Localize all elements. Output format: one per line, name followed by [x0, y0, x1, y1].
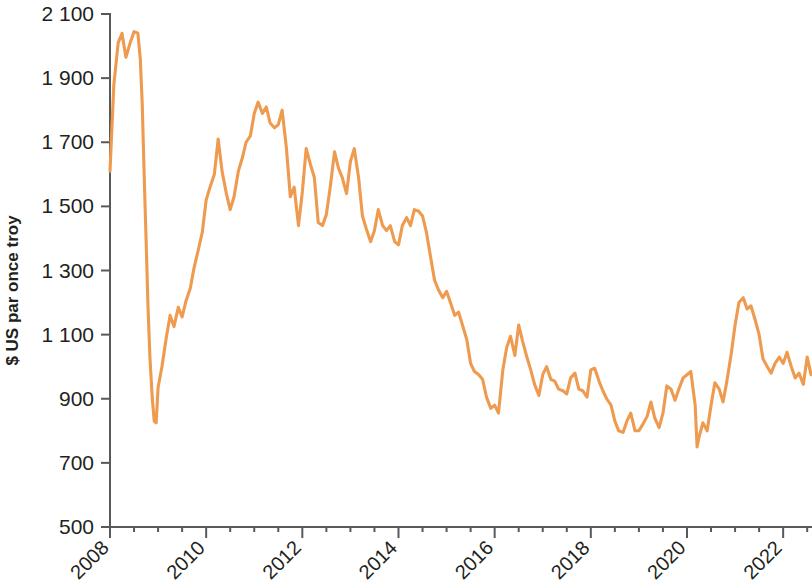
y-axis-tick-labels: 5007009001 1001 3001 5001 7001 9002 100 — [41, 2, 94, 538]
x-tick-label: 2020 — [643, 536, 690, 583]
y-tick-label: 1 300 — [41, 259, 94, 282]
y-tick-label: 2 100 — [41, 2, 94, 25]
x-tick-label: 2010 — [162, 536, 209, 583]
y-axis-title: $ US par once troy — [3, 215, 22, 366]
y-tick-label: 1 500 — [41, 194, 94, 217]
series-line — [110, 32, 811, 447]
x-tick-label: 2012 — [258, 536, 305, 583]
x-tick-label: 2008 — [66, 536, 113, 583]
x-tick-label: 2016 — [450, 536, 497, 583]
y-tick-label: 1 700 — [41, 130, 94, 153]
chart-container: 5007009001 1001 3001 5001 7001 9002 100 … — [0, 0, 812, 588]
data-series-group — [110, 32, 811, 447]
axis-tick-marks — [101, 14, 807, 538]
x-axis-tick-labels: 20082010201220142016201820202022 — [66, 536, 786, 583]
x-tick-label: 2018 — [547, 536, 594, 583]
y-tick-label: 500 — [59, 515, 94, 538]
x-tick-label: 2022 — [739, 536, 786, 583]
y-tick-label: 1 100 — [41, 323, 94, 346]
y-tick-label: 900 — [59, 387, 94, 410]
line-chart: 5007009001 1001 3001 5001 7001 9002 100 … — [0, 0, 812, 588]
y-tick-label: 700 — [59, 451, 94, 474]
x-tick-label: 2014 — [354, 536, 401, 583]
y-tick-label: 1 900 — [41, 66, 94, 89]
